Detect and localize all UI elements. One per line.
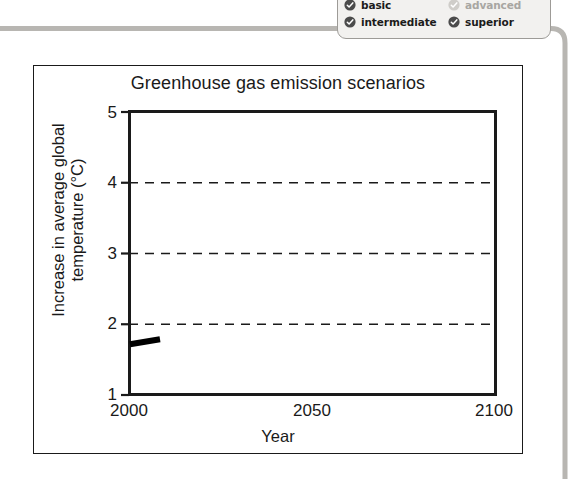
check-circle-icon <box>344 0 356 11</box>
difficulty-badge-box: basic advanced intermediate superior <box>337 0 551 39</box>
badge-label: basic <box>361 0 391 11</box>
series-line-observed <box>130 339 160 344</box>
badge-item-superior[interactable]: superior <box>448 13 546 30</box>
page-border <box>550 29 565 479</box>
check-circle-icon <box>448 16 460 28</box>
badge-label: intermediate <box>361 16 437 28</box>
badge-label: advanced <box>465 0 521 11</box>
badge-item-basic[interactable]: basic <box>344 0 448 13</box>
badge-item-intermediate[interactable]: intermediate <box>344 13 448 30</box>
check-circle-icon <box>448 0 460 11</box>
plot-area <box>34 66 524 455</box>
badge-label: superior <box>465 16 514 28</box>
difficulty-badge-grid: basic advanced intermediate superior <box>344 0 546 30</box>
check-circle-icon <box>344 16 356 28</box>
figure-box: Greenhouse gas emission scenarios Increa… <box>33 65 523 454</box>
badge-item-advanced[interactable]: advanced <box>448 0 546 13</box>
